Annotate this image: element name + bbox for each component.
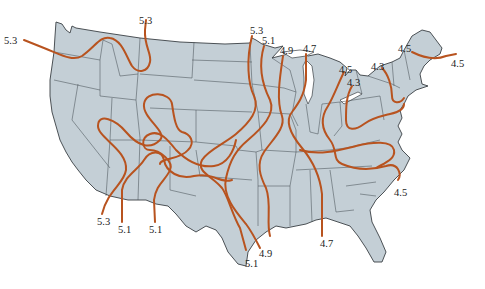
- contour-label: 4.5: [451, 59, 464, 70]
- contour-label: 5.1: [149, 225, 162, 236]
- us-contour-map: [0, 0, 485, 289]
- contour-label: 4.7: [320, 239, 333, 250]
- contour-label: 4.3: [371, 62, 384, 73]
- contour-label: 5.3: [4, 36, 17, 47]
- contour-label: 4.5: [394, 188, 407, 199]
- contour-label: 5.1: [245, 259, 258, 270]
- contour-label: 4.7: [303, 44, 316, 55]
- contour-label: 5.3: [97, 217, 110, 228]
- contour-label: 4.5: [398, 44, 411, 55]
- contour-label: 4.9: [280, 46, 293, 57]
- contour-label: 4.5: [339, 65, 352, 76]
- contour-label: 5.3: [139, 16, 152, 27]
- contour-label: 5.1: [262, 36, 275, 47]
- contour-label: 5.1: [118, 225, 131, 236]
- contour-label: 4.9: [259, 249, 272, 260]
- us-landmass: [50, 22, 442, 266]
- contour-label: 4.3: [347, 78, 360, 89]
